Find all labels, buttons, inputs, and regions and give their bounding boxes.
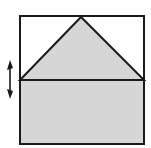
house-diagram (0, 0, 151, 148)
shaded-triangle (20, 17, 144, 80)
shaded-rectangle (20, 80, 144, 144)
double-arrow-icon (7, 60, 13, 99)
